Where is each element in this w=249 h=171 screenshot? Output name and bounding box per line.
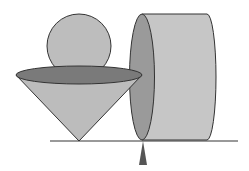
geometry-diagram [0,0,249,171]
cone-top [16,66,142,84]
cone-body [16,75,142,141]
pointer-triangle [139,141,147,165]
